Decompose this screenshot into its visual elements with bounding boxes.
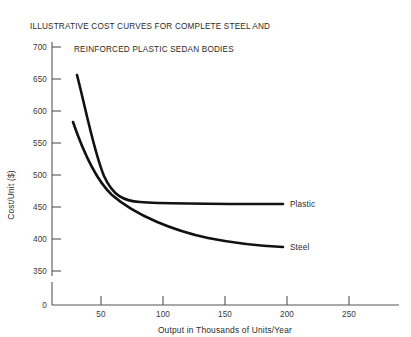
x-axis-title: Output in Thousands of Units/Year: [158, 325, 292, 335]
y-tick-label-400: 400: [33, 235, 47, 244]
y-tick-label-550: 550: [33, 139, 47, 148]
x-tick-label-50: 50: [96, 310, 106, 319]
y-tick-label-600: 600: [33, 107, 47, 116]
plastic-series-label: Plastic: [290, 200, 315, 209]
y-tick-label-700: 700: [33, 43, 47, 52]
chart-page: ILLUSTRATIVE COST CURVES FOR COMPLETE ST…: [0, 0, 411, 337]
y-tick-label-350: 350: [33, 267, 47, 276]
steel-series-label: Steel: [290, 243, 309, 252]
x-tick-marks: [101, 296, 349, 305]
plastic-curve: [77, 75, 283, 204]
y-tick-label-450: 450: [33, 203, 47, 212]
cost-curve-chart: 700 650 600 550 500 450 400 350 0 50 100…: [0, 0, 411, 337]
x-tick-label-150: 150: [218, 310, 232, 319]
y-axis-title: Cost/Unit ($): [6, 170, 16, 220]
x-tick-label-200: 200: [280, 310, 294, 319]
y-tick-label-650: 650: [33, 75, 47, 84]
y-tick-marks: [52, 47, 61, 271]
steel-curve: [73, 122, 283, 247]
y-tick-label-500: 500: [33, 171, 47, 180]
y-tick-label-0: 0: [42, 301, 47, 310]
x-tick-label-250: 250: [342, 310, 356, 319]
x-tick-label-100: 100: [156, 310, 170, 319]
